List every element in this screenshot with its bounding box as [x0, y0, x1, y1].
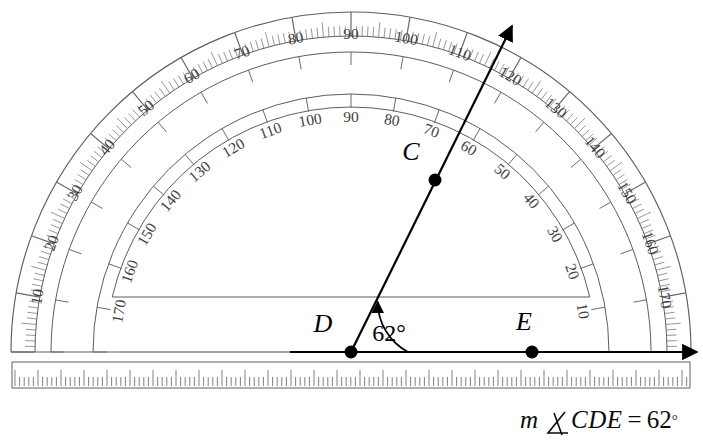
- minor-tick: [306, 29, 307, 39]
- outer-scale-number: 170: [655, 284, 676, 310]
- minor-tick: [33, 279, 43, 281]
- minor-tick: [659, 279, 669, 281]
- minor-tick: [113, 130, 120, 137]
- point-label: C: [402, 137, 420, 166]
- minor-tick: [390, 28, 391, 38]
- minor-tick: [642, 225, 651, 229]
- inner-major-tick: [263, 110, 268, 123]
- minor-tick: [613, 170, 621, 176]
- minor-tick: [532, 81, 541, 93]
- minor-tick: [38, 262, 48, 265]
- minor-tick: [81, 170, 89, 176]
- protractor-figure: 1020304050607080901001101201301401501601…: [0, 0, 703, 445]
- outer-scale-number: 110: [447, 40, 474, 64]
- minor-tick: [198, 64, 203, 73]
- minor-tick: [75, 179, 83, 184]
- minor-tick: [656, 266, 670, 270]
- point-dot: [429, 174, 442, 187]
- outer-major-tick: [248, 70, 252, 82]
- point-label: E: [515, 307, 532, 336]
- figure-caption: m CDE = 62 °: [520, 398, 700, 442]
- minor-tick: [78, 174, 86, 179]
- minor-tick: [261, 39, 264, 49]
- minor-tick: [51, 225, 60, 229]
- inner-scale-number: 170: [108, 298, 129, 324]
- minor-tick: [21, 323, 36, 324]
- minor-tick: [173, 79, 178, 87]
- minor-tick: [640, 219, 649, 223]
- inner-major-tick: [153, 186, 164, 195]
- inner-scale-number: 40: [520, 189, 543, 212]
- outer-scale-number: 10: [27, 287, 46, 305]
- inner-scale-number: 130: [185, 157, 214, 185]
- minor-tick: [161, 81, 170, 93]
- outer-major-tick: [535, 122, 543, 132]
- minor-tick: [224, 52, 228, 61]
- minor-tick: [283, 33, 285, 43]
- minor-tick: [91, 156, 99, 162]
- angle-measure-label: 62°: [372, 320, 406, 346]
- inner-scale-number: 110: [257, 118, 284, 142]
- ray-DC: [351, 26, 512, 352]
- minor-tick: [658, 273, 668, 275]
- inner-major-tick: [538, 186, 549, 195]
- inner-scale-number: 80: [383, 110, 401, 129]
- minor-tick: [116, 126, 123, 133]
- point-dot: [526, 346, 539, 359]
- minor-tick: [665, 318, 675, 319]
- inner-major-tick: [508, 154, 517, 165]
- outer-scale-number: 160: [639, 229, 663, 257]
- minor-tick: [655, 262, 665, 265]
- minor-tick: [208, 59, 212, 68]
- minor-tick: [317, 28, 318, 38]
- minor-tick: [159, 88, 165, 96]
- minor-tick: [311, 28, 312, 38]
- outer-major-tick: [600, 202, 611, 209]
- outer-major-tick: [495, 92, 502, 103]
- minor-tick: [438, 39, 441, 49]
- inner-major-tick: [473, 129, 480, 141]
- tick-ring-arc: [35, 36, 667, 352]
- outer-major-tick: [449, 70, 453, 82]
- minor-tick: [379, 22, 380, 37]
- minor-tick: [265, 32, 269, 46]
- minor-tick: [41, 251, 51, 254]
- minor-tick: [229, 50, 233, 59]
- minor-tick: [523, 79, 528, 87]
- point-label: D: [313, 309, 333, 338]
- inner-scale-number: 20: [562, 261, 583, 282]
- minor-tick: [422, 34, 424, 44]
- minor-tick: [27, 312, 37, 313]
- minor-tick: [25, 335, 35, 336]
- outer-major-tick: [621, 249, 633, 253]
- minor-tick: [637, 212, 651, 218]
- minor-tick: [666, 323, 681, 324]
- minor-tick: [87, 160, 95, 166]
- minor-tick: [32, 284, 42, 286]
- outer-major-tick: [634, 300, 647, 302]
- minor-tick: [474, 52, 478, 61]
- inner-scale-number: 160: [117, 257, 141, 285]
- minor-tick: [203, 62, 208, 71]
- inner-scale-numbers: 1020304050607080901001101201301401501601…: [108, 108, 593, 324]
- minor-tick: [80, 162, 92, 171]
- outer-scale-number: 140: [581, 133, 609, 162]
- inner-major-tick: [562, 223, 574, 230]
- outer-scale-number: 100: [393, 28, 419, 49]
- minor-tick: [256, 40, 259, 50]
- caption-value: 62: [647, 406, 672, 434]
- minor-tick: [26, 329, 36, 330]
- minor-tick: [578, 126, 585, 133]
- point-C: C: [402, 137, 441, 187]
- minor-tick: [31, 266, 45, 270]
- minor-tick: [218, 54, 222, 63]
- inner-major-tick: [109, 264, 122, 269]
- caption-degree-icon: °: [672, 412, 678, 429]
- caption-m: m: [520, 406, 538, 434]
- minor-tick: [27, 318, 37, 319]
- outer-scale-number: 80: [287, 28, 305, 47]
- minor-tick: [616, 174, 624, 179]
- outer-scale-number: 90: [343, 25, 359, 42]
- minor-tick: [603, 156, 611, 162]
- minor-tick: [39, 257, 49, 260]
